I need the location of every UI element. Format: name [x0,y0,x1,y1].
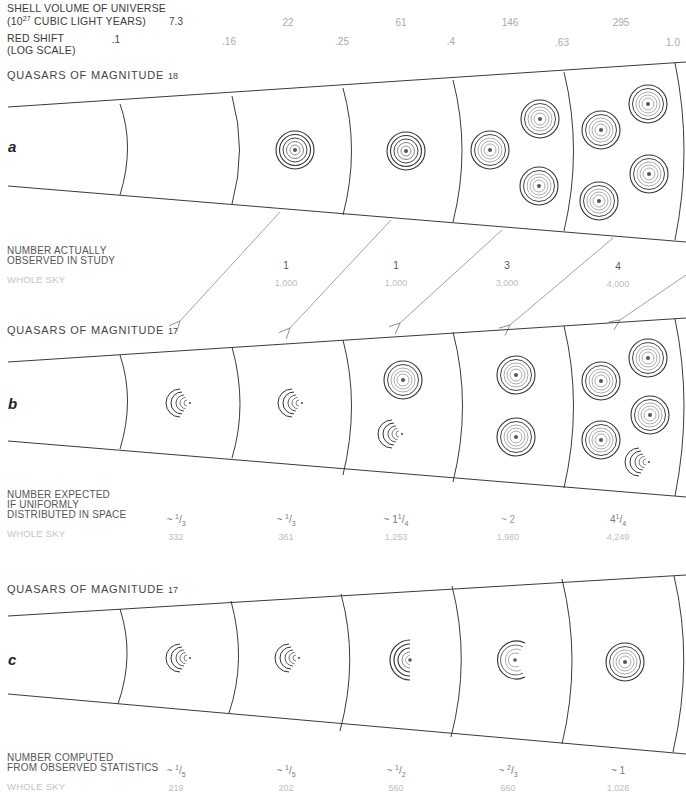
expected-count: ~ 11/4 [371,514,421,525]
approx-sign: ~ [166,765,175,776]
panel-b-whole-sky-label: WHOLE SKY [7,528,65,539]
quasar-icon [471,131,509,169]
numerator: 1 [175,764,179,771]
numerator: 1 [615,513,619,520]
observed-count: 3 [487,260,527,271]
partial-quasar-icon [390,640,412,680]
whole-sky-value: 1,253 [376,532,416,542]
quasar-icon [497,356,535,394]
whole-sky-value: 202 [266,783,306,793]
approx-sign: ~ [498,765,507,776]
expected-count: ~ 2 [483,514,533,525]
partial-quasar-icon [498,641,525,679]
numerator: 1 [175,513,179,520]
quasar-icon [606,643,644,681]
row-label-line: DISTRIBUTED IN SPACE [7,510,126,520]
whole-part: 1 [620,765,626,776]
quasar-icon [582,362,620,400]
whole-sky-value: 1,980 [488,532,528,542]
computed-count: ~ 1/5 [261,765,311,776]
quasar-icon [629,85,667,123]
numerator: 1 [398,513,402,520]
panel-a-whole-sky-label: WHOLE SKY [7,274,65,285]
numerator: 2 [507,764,511,771]
expected-count: ~ 1/3 [261,514,311,525]
panel-c-cone [8,575,686,754]
approx-sign: ~ [501,514,510,525]
quasar-icon [276,131,314,169]
faint-quasar-icon [275,644,300,672]
numerator: 1 [285,513,289,520]
panel-c-whole-sky-label: WHOLE SKY [7,781,65,792]
approx-sign: ~ [276,765,285,776]
panel-b-row-label: NUMBER EXPECTED IF UNIFORMLY DISTRIBUTED… [7,490,126,520]
computed-count: ~ 1/5 [151,765,201,776]
row-label-line: FROM OBSERVED STATISTICS [7,763,159,773]
faint-quasar-icon [278,389,303,417]
quasar-icon [582,111,620,149]
denominator: 3 [182,520,186,527]
numerator: 1 [285,764,289,771]
quasar-icon [387,132,425,170]
whole-sky-value: 4,000 [598,279,638,289]
faint-quasar-icon [166,644,191,672]
whole-sky-value: 1,026 [598,783,638,793]
approx-sign: ~ [166,514,175,525]
quasar-shell-diagram [0,0,686,803]
row-label-line: OBSERVED IN STUDY [7,256,115,266]
panel-c-row-label: NUMBER COMPUTED FROM OBSERVED STATISTICS [7,753,159,773]
quasar-icon [497,418,535,456]
denominator: 4 [404,520,408,527]
observed-count: 4 [598,261,638,272]
panel-a-row-label: NUMBER ACTUALLY OBSERVED IN STUDY [7,246,115,266]
quasar-icon [521,100,559,138]
whole-sky-value: 1,000 [266,278,306,288]
faint-quasar-icon [166,389,191,417]
quasar-icon [582,421,620,459]
denominator: 3 [292,520,296,527]
approx-sign: ~ [386,765,395,776]
quasar-icon [384,361,422,399]
panel-a-cone [8,62,686,242]
faint-quasar-icon [378,420,403,448]
approx-sign: ~ [384,514,393,525]
expected-count: 41/4 [593,514,643,525]
whole-sky-value: 1,000 [376,278,416,288]
expected-count: ~ 1/3 [151,514,201,525]
computed-count: ~ 2/3 [483,765,533,776]
denominator: 4 [622,520,626,527]
denominator: 2 [402,771,406,778]
whole-sky-value: 4,249 [598,532,638,542]
numerator: 1 [395,764,399,771]
whole-part: 2 [510,514,516,525]
quasar-icon [520,167,558,205]
quasar-icon [631,396,669,434]
whole-sky-value: 361 [266,532,306,542]
denominator: 5 [182,771,186,778]
whole-sky-value: 3,000 [487,278,527,288]
denominator: 5 [292,771,296,778]
whole-sky-value: 560 [376,783,416,793]
observed-count: 1 [266,260,306,271]
approx-sign: ~ [611,765,620,776]
whole-sky-value: 332 [156,532,196,542]
quasar-icon [630,155,668,193]
whole-sky-value: 219 [156,783,196,793]
panel-b-cone [8,318,686,497]
whole-sky-value: 660 [488,783,528,793]
computed-count: ~ 1 [593,765,643,776]
computed-count: ~ 1/2 [371,765,421,776]
quasar-icon [629,339,667,377]
denominator: 3 [514,771,518,778]
faint-quasar-icon [625,448,650,476]
approx-sign: ~ [276,514,285,525]
observed-count: 1 [376,260,416,271]
quasar-icon [580,182,618,220]
